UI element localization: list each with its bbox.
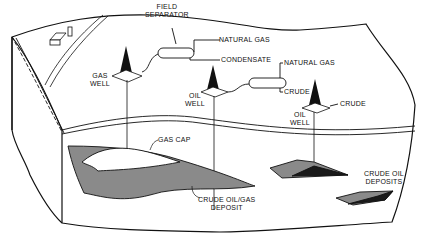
crude-oil-deposit-mid — [270, 160, 348, 178]
crude-right-label: CRUDE — [340, 100, 366, 108]
oil-well-mid-label: OILWELL — [185, 92, 205, 108]
gas-well-line-1: GAS — [90, 72, 110, 80]
oil-well-right-line-1: OIL — [290, 111, 310, 119]
crude-oil-deposits-label: CRUDE OILDEPOSITS — [364, 170, 404, 186]
gas-well-line-2: WELL — [90, 80, 110, 88]
crude-oil-gas-deposit — [68, 146, 255, 199]
farm-barn-icon — [50, 27, 72, 45]
natural-gas-top-label: NATURAL GAS — [219, 36, 270, 44]
field-label-line-1: FIELD — [145, 3, 189, 11]
field-label-line-2: SEPARATOR — [145, 11, 189, 19]
crude-oil-deposit-right — [336, 191, 393, 205]
oil-well-right-label: OILWELL — [290, 111, 310, 127]
crude-oil-gas-line-1: CRUDE OIL/GAS — [198, 196, 255, 204]
natural-gas-right-label: NATURAL GAS — [284, 59, 335, 67]
field-separator-label: FIELDSEPARATOR — [145, 3, 189, 19]
crude-oil-deposits-line-2: DEPOSITS — [364, 178, 404, 186]
oil-well-mid-line-1: OIL — [185, 92, 205, 100]
crude-oil-gas-line-2: DEPOSIT — [198, 204, 255, 212]
gas-cap-label: GAS CAP — [158, 136, 191, 144]
oil-well-mid-line-2: WELL — [185, 100, 205, 108]
gas-well-label: GASWELL — [90, 72, 110, 88]
oil-well-right-line-2: WELL — [290, 119, 310, 127]
crude-oil-gas-deposit-label: CRUDE OIL/GASDEPOSIT — [198, 196, 255, 212]
crude-oil-deposits-line-1: CRUDE OIL — [364, 170, 404, 178]
condensate-label: CONDENSATE — [221, 56, 271, 64]
crude-separator-label: CRUDE — [284, 88, 310, 96]
